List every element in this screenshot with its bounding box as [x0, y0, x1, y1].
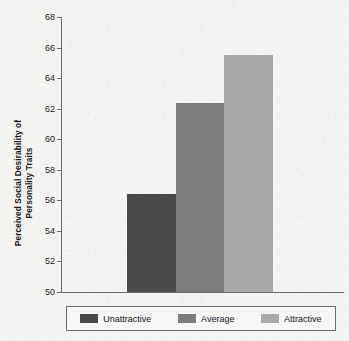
chart-legend: UnattractiveAverageAttractive — [66, 306, 336, 331]
y-axis-tick-mark — [57, 261, 61, 262]
y-axis-tick-label: 62 — [45, 104, 55, 114]
y-axis-tick-mark — [57, 48, 61, 49]
x-axis-line — [61, 292, 344, 293]
plot-area: 50525456586062646668 — [61, 17, 344, 293]
y-axis-tick-label: 56 — [45, 195, 55, 205]
y-axis-tick-mark — [57, 139, 61, 140]
y-axis-tick-label: 50 — [45, 287, 55, 297]
y-axis-tick-label: 68 — [45, 12, 55, 22]
y-axis-tick-label: 60 — [45, 134, 55, 144]
legend-item-attractive: Attractive — [261, 314, 322, 324]
bar-average — [176, 103, 225, 292]
legend-label: Attractive — [284, 314, 322, 324]
legend-label: Average — [201, 314, 234, 324]
y-axis-title: Perceived Social Desirability of Persona… — [13, 68, 35, 298]
y-axis-tick-label: 58 — [45, 165, 55, 175]
bar-unattractive — [127, 194, 176, 292]
legend-item-unattractive: Unattractive — [80, 314, 151, 324]
y-axis-tick-mark — [57, 292, 61, 293]
y-axis-tick-mark — [57, 17, 61, 18]
y-axis-tick-label: 54 — [45, 226, 55, 236]
legend-swatch-icon — [178, 314, 196, 323]
legend-swatch-icon — [261, 314, 279, 323]
legend-swatch-icon — [80, 314, 98, 323]
y-axis-tick-mark — [57, 109, 61, 110]
y-axis-tick-mark — [57, 170, 61, 171]
y-axis-tick-mark — [57, 78, 61, 79]
bar-chart-figure: Perceived Social Desirability of Persona… — [0, 0, 349, 341]
y-axis-tick-label: 64 — [45, 73, 55, 83]
y-axis-tick-mark — [57, 200, 61, 201]
bar-attractive — [224, 55, 273, 292]
y-axis-tick-label: 66 — [45, 43, 55, 53]
y-axis-line — [61, 17, 62, 293]
legend-label: Unattractive — [103, 314, 151, 324]
legend-item-average: Average — [178, 314, 234, 324]
y-axis-tick-label: 52 — [45, 256, 55, 266]
y-axis-tick-mark — [57, 231, 61, 232]
